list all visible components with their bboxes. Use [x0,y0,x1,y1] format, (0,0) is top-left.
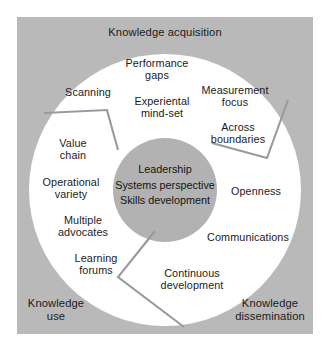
diagram-canvas: Knowledge acquisition Knowledge dissemin… [0,0,326,351]
ring-label-value-chain: Value chain [42,137,104,161]
ring-label-measurement-focus: Measurement focus [192,84,278,108]
segment-label-knowledge-acquisition: Knowledge acquisition [83,26,247,39]
ring-label-communications: Communications [200,231,296,243]
core-line-skills-development: Skills development [96,193,234,209]
ring-label-continuous-development: Continuous development [144,267,240,291]
segment-label-knowledge-dissemination: Knowledge dissemination [226,297,314,322]
core-line-leadership: Leadership [96,162,234,178]
ring-label-scanning: Scanning [58,86,118,98]
ring-label-experiental-mind-set: Experiental mind-set [122,95,202,119]
ring-label-across-boundaries: Across boundaries [198,121,278,145]
ring-label-learning-forums: Learning forums [61,252,131,276]
segment-label-knowledge-use: Knowledge use [17,297,95,322]
core-text-block: Leadership Systems perspective Skills de… [96,162,234,209]
ring-label-performance-gaps: Performance gaps [112,57,202,81]
core-line-systems-perspective: Systems perspective [96,178,234,194]
ring-label-multiple-advocates: Multiple advocates [43,214,123,238]
